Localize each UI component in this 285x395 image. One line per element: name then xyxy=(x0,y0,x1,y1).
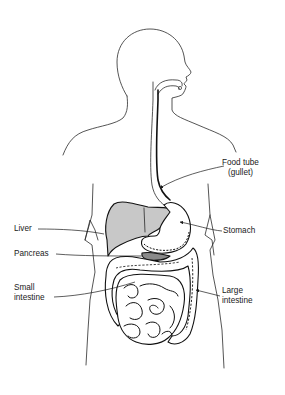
label-pancreas: Pancreas xyxy=(14,249,49,259)
liver-leader xyxy=(38,229,104,234)
left-neck-shoulder xyxy=(63,96,128,155)
label-large-intestine: Large intestine xyxy=(222,286,253,306)
left-torso-crease xyxy=(85,220,98,240)
food-tube-leader xyxy=(160,166,224,188)
head-outline xyxy=(117,29,236,152)
label-large-intestine-line1: Large xyxy=(222,286,253,296)
label-liver: Liver xyxy=(14,224,32,234)
digestive-system-diagram xyxy=(0,0,285,395)
label-large-intestine-line2: intestine xyxy=(222,296,253,306)
label-small-intestine-line1: Small xyxy=(14,283,45,293)
label-food-tube-line1: Food tube xyxy=(222,158,259,168)
label-food-tube: Food tube (gullet) xyxy=(222,158,259,178)
label-small-intestine: Small intestine xyxy=(14,283,45,303)
oral-cavity xyxy=(155,80,182,94)
tongue-tip xyxy=(178,86,181,89)
mouth-and-gullet xyxy=(151,80,183,205)
label-food-tube-line2: (gullet) xyxy=(222,168,259,178)
left-torso-outline xyxy=(85,184,95,365)
pancreas-leader xyxy=(56,254,142,256)
label-small-intestine-line2: intestine xyxy=(14,293,45,303)
right-torso-outline xyxy=(208,184,224,368)
label-stomach: Stomach xyxy=(223,226,255,236)
right-torso-crease xyxy=(205,215,214,255)
